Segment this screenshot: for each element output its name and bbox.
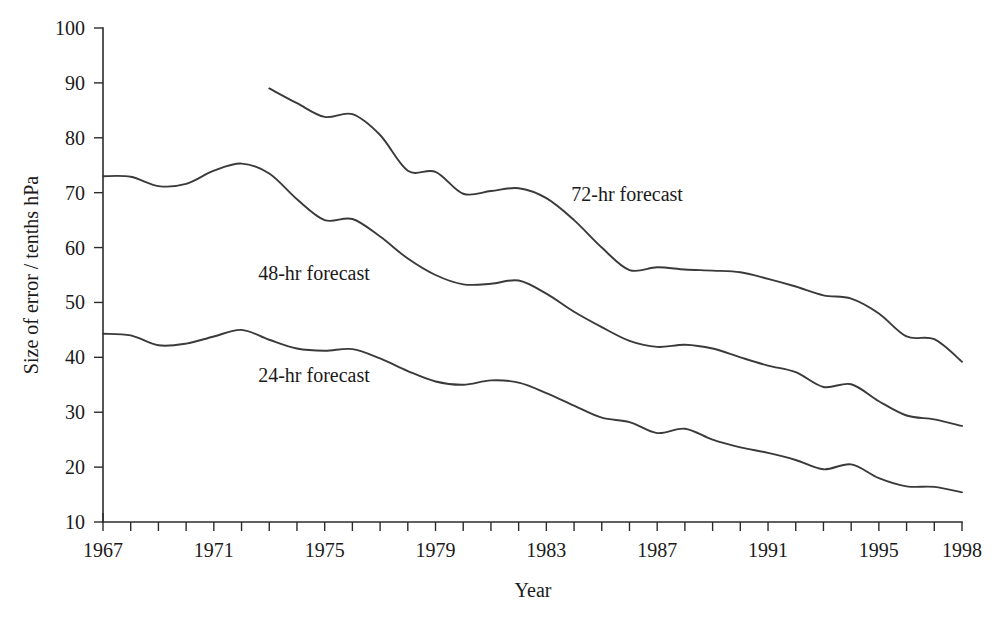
- x-tick-label-1975: 1975: [305, 539, 345, 561]
- y-tick-label-70: 70: [65, 182, 85, 204]
- y-tick-label-60: 60: [65, 237, 85, 259]
- y-tick-label-20: 20: [65, 456, 85, 478]
- series-label-48-hr-forecast: 48-hr forecast: [258, 262, 370, 284]
- x-tick-label-1971: 1971: [194, 539, 234, 561]
- x-tick-label-1998: 1998: [942, 539, 982, 561]
- y-tick-label-100: 100: [55, 17, 85, 39]
- y-tick-label-30: 30: [65, 401, 85, 423]
- y-axis-ticks: [94, 28, 103, 522]
- x-tick-label-1967: 1967: [83, 539, 123, 561]
- x-tick-label-1987: 1987: [637, 539, 677, 561]
- y-axis-tick-labels: 102030405060708090100: [55, 17, 85, 533]
- x-tick-label-1991: 1991: [748, 539, 788, 561]
- y-tick-label-50: 50: [65, 291, 85, 313]
- series-label-24-hr-forecast: 24-hr forecast: [258, 364, 370, 386]
- x-tick-label-1979: 1979: [416, 539, 456, 561]
- x-tick-label-1983: 1983: [526, 539, 566, 561]
- series-line-72-hr-forecast: [269, 88, 962, 361]
- y-tick-label-10: 10: [65, 511, 85, 533]
- x-axis-tick-labels: 196719711975197919831987199119951998: [83, 539, 982, 561]
- line-chart-figure: 102030405060708090100 196719711975197919…: [0, 0, 1004, 623]
- x-tick-label-1995: 1995: [859, 539, 899, 561]
- y-axis-title: Size of error / tenths hPa: [20, 176, 42, 374]
- series-label-72-hr-forecast: 72-hr forecast: [571, 183, 683, 205]
- y-tick-label-80: 80: [65, 127, 85, 149]
- axes-group: [103, 28, 962, 522]
- series-lines-group: [103, 88, 962, 492]
- y-tick-label-40: 40: [65, 346, 85, 368]
- chart-canvas: 102030405060708090100 196719711975197919…: [0, 0, 1004, 623]
- y-tick-label-90: 90: [65, 72, 85, 94]
- series-line-24-hr-forecast: [103, 330, 962, 493]
- x-axis-title: Year: [515, 579, 552, 601]
